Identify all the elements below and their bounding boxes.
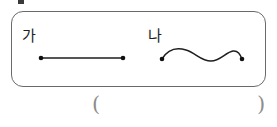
endpoint-dot-na-left: [160, 57, 165, 62]
endpoint-dot-ga-left: [39, 56, 44, 61]
shape-label-ga: 가: [22, 29, 36, 44]
shape-ga: [39, 56, 126, 61]
endpoint-dot-na-right: [240, 57, 245, 62]
worksheet-figure: 가 나 ( ): [0, 0, 277, 127]
shape-label-na: 나: [148, 29, 162, 44]
shape-na: [160, 49, 245, 62]
endpoint-dot-ga-right: [121, 56, 126, 61]
answer-blank-row: ( ): [11, 92, 266, 122]
curve-na-segment: [162, 49, 242, 61]
answer-open-paren: (: [92, 94, 100, 115]
answer-close-paren: ): [257, 94, 265, 115]
